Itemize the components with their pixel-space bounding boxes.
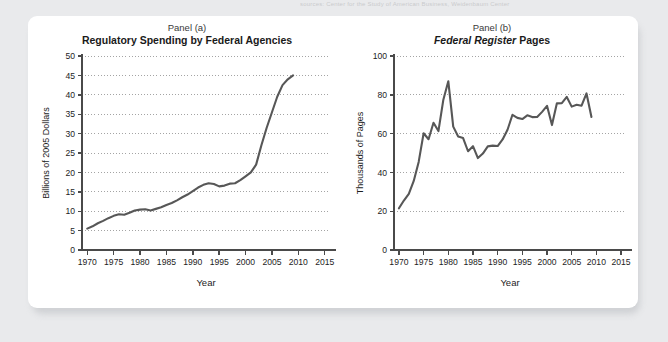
panel-b-svg: 0204060801001970197519801985199019952000… — [352, 50, 634, 302]
panel-a-svg: 0510152025303540455019701975198019851990… — [38, 50, 338, 302]
y-tick-label: 0 — [382, 245, 387, 255]
x-tick-label: 1985 — [157, 257, 176, 267]
y-tick-label: 45 — [65, 71, 75, 81]
data-line — [399, 81, 592, 208]
x-tick-label: 1990 — [488, 257, 507, 267]
x-tick-label: 2015 — [612, 257, 631, 267]
panel-a: Panel (a) Regulatory Spending by Federal… — [28, 16, 346, 308]
y-tick-label: 20 — [377, 206, 387, 216]
panel-a-title: Regulatory Spending by Federal Agencies — [28, 34, 346, 47]
panel-b-title: Federal Register Pages — [346, 34, 638, 47]
x-axis-label: Year — [500, 277, 519, 288]
y-tick-label: 50 — [65, 51, 75, 61]
y-tick-label: 60 — [377, 129, 387, 139]
panel-b: Panel (b) Federal Register Pages 0204060… — [346, 16, 638, 308]
x-axis-label: Year — [196, 277, 215, 288]
panel-b-caption: Panel (b) — [346, 22, 638, 34]
x-tick-label: 1985 — [463, 257, 482, 267]
panel-b-title-italic: Federal Register — [434, 34, 516, 46]
y-tick-label: 0 — [70, 245, 75, 255]
x-tick-label: 2010 — [587, 257, 606, 267]
x-tick-label: 1970 — [78, 257, 97, 267]
y-tick-label: 15 — [65, 187, 75, 197]
x-tick-label: 2005 — [262, 257, 281, 267]
y-tick-label: 25 — [65, 148, 75, 158]
y-tick-label: 40 — [65, 90, 75, 100]
x-tick-label: 1970 — [389, 257, 408, 267]
x-tick-label: 1975 — [414, 257, 433, 267]
y-tick-label: 40 — [377, 168, 387, 178]
x-tick-label: 1995 — [210, 257, 229, 267]
x-tick-label: 2005 — [562, 257, 581, 267]
page-background: sources: Center for the Study of America… — [0, 0, 668, 342]
x-tick-label: 1975 — [104, 257, 123, 267]
y-axis-label: Billions of 2005 Dollars — [41, 107, 51, 199]
data-line — [87, 75, 293, 228]
y-tick-label: 10 — [65, 206, 75, 216]
x-tick-label: 2000 — [537, 257, 556, 267]
y-tick-label: 20 — [65, 168, 75, 178]
x-tick-label: 1990 — [183, 257, 202, 267]
x-tick-label: 2015 — [315, 257, 334, 267]
x-tick-label: 1980 — [439, 257, 458, 267]
x-tick-label: 2000 — [236, 257, 255, 267]
y-tick-label: 100 — [373, 51, 388, 61]
panel-a-caption: Panel (a) — [28, 22, 346, 34]
y-tick-label: 35 — [65, 109, 75, 119]
panel-b-plot: 0204060801001970197519801985199019952000… — [352, 50, 634, 302]
y-axis-label: Thousands of Pages — [355, 111, 365, 194]
x-tick-label: 2010 — [289, 257, 308, 267]
top-cutoff-caption: sources: Center for the Study of America… — [300, 0, 600, 10]
y-tick-label: 5 — [70, 226, 75, 236]
panel-a-plot: 0510152025303540455019701975198019851990… — [38, 50, 338, 302]
y-tick-label: 30 — [65, 129, 75, 139]
y-tick-label: 80 — [377, 90, 387, 100]
x-tick-label: 1980 — [130, 257, 149, 267]
figure-card: Panel (a) Regulatory Spending by Federal… — [28, 16, 638, 308]
x-tick-label: 1995 — [513, 257, 532, 267]
panel-b-title-rest: Pages — [516, 34, 550, 46]
